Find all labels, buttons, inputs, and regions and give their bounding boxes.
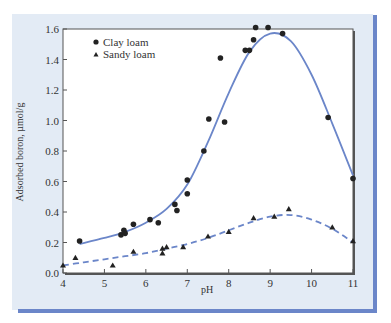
y-tick-label: 0.2 <box>45 237 59 249</box>
y-tick-label: 0.0 <box>45 267 59 279</box>
chart: 0.00.20.40.60.81.01.21.41.6 4567891011 A… <box>0 0 391 323</box>
x-tick-label: 6 <box>143 277 149 289</box>
circle-marker-icon <box>350 176 356 182</box>
y-tick-label: 1.2 <box>45 84 59 96</box>
circle-marker-icon <box>77 238 83 244</box>
y-tick-label: 0.6 <box>45 176 59 188</box>
circle-marker-icon <box>184 177 190 183</box>
circle-marker-icon <box>155 220 161 226</box>
x-tick-label: 9 <box>267 277 273 289</box>
x-tick-label: 11 <box>348 277 359 289</box>
circle-marker-icon <box>172 202 178 208</box>
y-tick-label: 0.4 <box>45 206 59 218</box>
x-tick-label: 10 <box>306 277 318 289</box>
right-accent-bar <box>373 15 377 313</box>
circle-marker-icon <box>206 116 212 122</box>
x-tick-label: 5 <box>102 277 108 289</box>
legend-label-sandy-loam: Sandy loam <box>103 48 156 60</box>
circle-marker-icon <box>201 148 207 154</box>
x-tick-label: 7 <box>185 277 191 289</box>
bottom-accent-bar <box>18 309 377 313</box>
circle-marker-icon <box>247 48 253 54</box>
circle-marker-icon <box>218 55 224 61</box>
circle-marker-icon <box>184 191 190 197</box>
legend: Clay loam Sandy loam <box>93 36 155 60</box>
circle-marker-icon <box>280 31 286 37</box>
x-tick-label: 8 <box>226 277 232 289</box>
y-tick-label: 1.0 <box>45 115 59 127</box>
y-axis-title: Adsorbed boron, µmol/g <box>14 103 25 202</box>
circle-marker-icon <box>222 119 228 125</box>
circle-marker-icon <box>251 37 257 43</box>
circle-marker-icon <box>122 231 128 237</box>
circle-marker-icon <box>131 221 137 227</box>
circle-marker-icon <box>174 208 180 214</box>
legend-circle-icon <box>93 39 98 44</box>
y-tick-label: 0.8 <box>45 145 59 157</box>
y-tick-label: 1.4 <box>45 54 59 66</box>
circle-marker-icon <box>325 115 331 121</box>
x-axis-title: pH <box>201 284 213 295</box>
legend-label-clay-loam: Clay loam <box>103 36 149 48</box>
y-tick-label: 1.6 <box>45 23 59 35</box>
circle-marker-icon <box>265 25 271 31</box>
circle-marker-icon <box>147 217 153 223</box>
circle-marker-icon <box>253 25 259 31</box>
x-tick-label: 4 <box>60 277 66 289</box>
